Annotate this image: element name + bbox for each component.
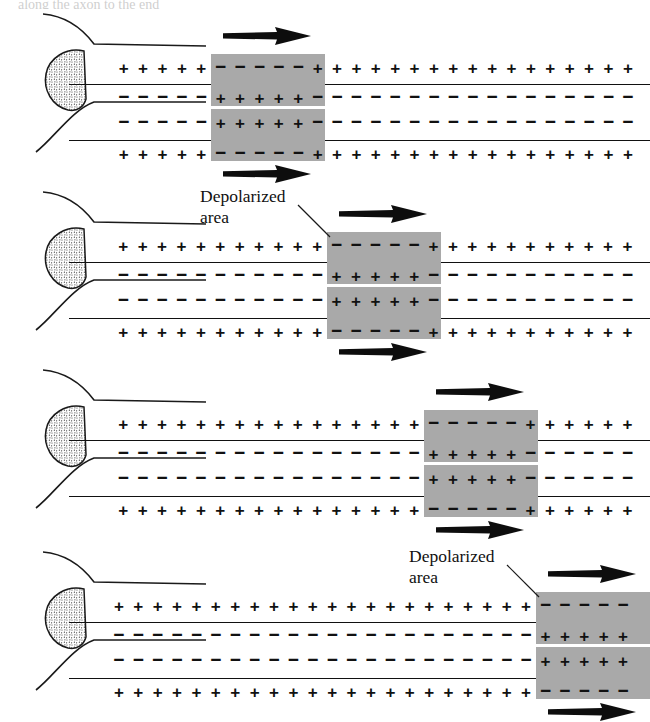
- upper-axon-depolarized-charges: +++++: [211, 89, 308, 108]
- depolarized-area-callout: Depolarizedarea: [200, 186, 286, 228]
- charge-row-lower-inner: −−−−−−−−−−−−−−−−−−−−−−+++++: [109, 651, 633, 671]
- lower-axon-trail-charges: −−−−−−−−−−−−−−−−−: [308, 114, 638, 133]
- upper-axon-lead-charges: −−−−−−−−−−−−−−−−−−−−−−: [109, 627, 536, 646]
- lower-axon-trail-charges: −−−−−−: [521, 470, 637, 489]
- charge-row-lower-inner: −−−−−−−−−−−−−−−−+++++−−−−−−: [114, 469, 638, 489]
- upper-axon-trail-charges: −−−−−−: [521, 445, 637, 464]
- upper-axon-depolarized-charges: +++++: [327, 267, 424, 286]
- lower-axon-lead-charges: −−−−−−−−−−−: [114, 292, 327, 311]
- propagation-arrow-lower: [546, 702, 638, 722]
- lower-axon-lead-charges: −−−−−: [114, 114, 211, 133]
- lower-axon-lead-charges: ++++++++++++++++: [114, 501, 424, 520]
- panel-stage-1: +++++−−−−−+++++++++++++++++−−−−−+++++−−−…: [0, 0, 650, 178]
- truncated-caption-fragment: along the axon to the end: [18, 0, 418, 9]
- neuron-cell-body: [26, 544, 206, 694]
- upper-axon-depolarized-charges: −−−−−: [536, 597, 633, 616]
- charge-row-upper-inner: −−−−−−−−−−−−−−−−−−−−−−+++++: [109, 626, 633, 646]
- depolarized-label-line1: Depolarized: [200, 186, 286, 206]
- arrow-right-icon: [337, 342, 429, 362]
- lower-axon-depolarized-charges: +++++: [536, 652, 633, 671]
- lower-axon-depolarized-charges: +++++: [211, 114, 308, 133]
- upper-axon-membrane-line: [69, 440, 650, 441]
- lower-axon-trail-charges: +++++++++++: [424, 323, 637, 342]
- depolarized-label-line1: Depolarized: [409, 546, 495, 566]
- panel-stage-3: ++++++++++++++++−−−−−++++++−−−−−−−−−−−−−…: [0, 356, 650, 534]
- lower-axon-trail-charges: +++++++++++++++++: [308, 145, 638, 164]
- lower-axon-lead-charges: +++++++++++: [114, 323, 327, 342]
- lower-axon-depolarized-charges: −−−−−: [536, 683, 633, 702]
- cell-body-soma: [26, 6, 206, 156]
- depolarized-leader-wrap: [506, 564, 546, 604]
- arrow-right-icon: [546, 564, 638, 584]
- action-potential-propagation-figure: along the axon to the end +++++−−−−−++++…: [0, 0, 650, 722]
- upper-axon-lead-charges: +++++: [114, 59, 211, 78]
- lower-axon-membrane-line: [69, 140, 650, 141]
- upper-axon-lead-charges: −−−−−: [114, 89, 211, 108]
- cell-body-soma: [26, 362, 206, 512]
- charge-row-upper-inner: −−−−−−−−−−−−−−−−+++++−−−−−−: [114, 444, 638, 464]
- lower-axon-trail-charges: −−−−−−−−−−−: [424, 292, 637, 311]
- upper-axon-trail-charges: +++++++++++++++++: [308, 59, 638, 78]
- propagation-arrow-lower: [337, 342, 429, 366]
- propagation-arrow-lower: [434, 520, 526, 544]
- upper-axon-hillock: [43, 552, 206, 584]
- propagation-arrow-upper: [221, 26, 313, 50]
- upper-axon-lead-charges: −−−−−−−−−−−−−−−−: [114, 445, 424, 464]
- arrow-right-icon: [434, 520, 526, 540]
- panel-stage-4: ++++++++++++++++++++++−−−−−−−−−−−−−−−−−−…: [0, 538, 650, 716]
- arrow-right-icon: [434, 382, 526, 402]
- arrow-right-icon: [337, 204, 429, 224]
- arrow-right-icon: [221, 26, 313, 46]
- upper-axon-trail-charges: ++++++: [521, 415, 637, 434]
- soma-outline: [45, 228, 86, 288]
- upper-axon-lead-charges: ++++++++++++++++: [114, 415, 424, 434]
- propagation-arrow-upper: [434, 382, 526, 406]
- lower-axon-lead-charges: −−−−−−−−−−−−−−−−−−−−−−: [109, 652, 536, 671]
- charge-row-upper-outer: +++++++++++−−−−−+++++++++++: [114, 236, 638, 256]
- lower-axon-depolarized-charges: +++++: [327, 292, 424, 311]
- soma-outline: [45, 50, 86, 110]
- depolarized-area-callout: Depolarizedarea: [409, 546, 495, 588]
- upper-axon-hillock: [43, 370, 206, 402]
- depolarized-leader-wrap: [297, 204, 337, 244]
- upper-axon-depolarized-charges: −−−−−: [424, 415, 521, 434]
- upper-axon-hillock: [43, 14, 206, 46]
- lower-axon-membrane-line: [69, 496, 650, 497]
- neuron-cell-body: [26, 362, 206, 512]
- charge-row-lower-inner: −−−−−−−−−−−+++++−−−−−−−−−−−: [114, 291, 638, 311]
- upper-axon-trail-charges: −−−−−−−−−−−−−−−−−: [308, 89, 638, 108]
- upper-axon-lead-charges: ++++++++++++++++++++++: [109, 597, 536, 616]
- charge-row-lower-outer: ++++++++++++++++++++++−−−−−: [109, 682, 633, 702]
- charge-row-lower-inner: −−−−−+++++−−−−−−−−−−−−−−−−−: [114, 113, 638, 133]
- upper-axon-lead-charges: −−−−−−−−−−−: [114, 267, 327, 286]
- soma-outline: [45, 588, 86, 648]
- lower-axon-trail-charges: ++++++: [521, 501, 637, 520]
- lower-axon-lead-charges: ++++++++++++++++++++++: [109, 683, 536, 702]
- upper-axon-depolarized-charges: +++++: [536, 627, 633, 646]
- arrow-right-icon: [221, 164, 313, 184]
- upper-axon-depolarized-charges: −−−−−: [211, 59, 308, 78]
- arrow-right-icon: [546, 702, 638, 722]
- neuron-cell-body: [26, 184, 206, 334]
- propagation-arrow-lower: [221, 164, 313, 188]
- charge-row-upper-inner: −−−−−−−−−−−+++++−−−−−−−−−−−: [114, 266, 638, 286]
- charge-row-upper-outer: ++++++++++++++++++++++−−−−−: [109, 596, 633, 616]
- propagation-arrow-upper: [337, 204, 429, 228]
- depolarized-leader-line: [506, 564, 546, 600]
- charge-row-upper-outer: +++++−−−−−+++++++++++++++++: [114, 58, 638, 78]
- depolarized-leader-line: [297, 204, 337, 240]
- upper-axon-depolarized-charges: −−−−−: [327, 237, 424, 256]
- charge-row-lower-outer: ++++++++++++++++−−−−−++++++: [114, 500, 638, 520]
- soma-outline: [45, 406, 86, 466]
- upper-axon-membrane-line: [69, 84, 650, 85]
- lower-axon-depolarized-charges: −−−−−: [424, 501, 521, 520]
- cell-body-soma: [26, 184, 206, 334]
- neuron-cell-body: [26, 6, 206, 156]
- lower-axon-depolarized-charges: −−−−−: [211, 145, 308, 164]
- depolarized-label-line2: area: [409, 567, 495, 588]
- upper-axon-trail-charges: +++++++++++: [424, 237, 637, 256]
- upper-axon-trail-charges: −−−−−−−−−−−: [424, 267, 637, 286]
- propagation-arrow-upper: [546, 564, 638, 588]
- depolarized-label-line2: area: [200, 207, 286, 228]
- charge-row-upper-inner: −−−−−+++++−−−−−−−−−−−−−−−−−: [114, 88, 638, 108]
